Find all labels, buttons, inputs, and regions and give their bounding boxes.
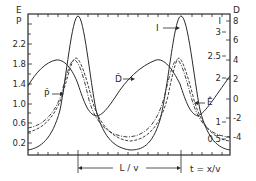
left-tick: 0.2 (12, 138, 26, 148)
curve-e (28, 60, 230, 137)
svg-text:P̂: P̂ (44, 88, 50, 99)
left-axis-label-p: P (16, 16, 22, 26)
curve-p (28, 58, 230, 141)
svg-text:Ê: Ê (207, 96, 213, 107)
arrow-icon (176, 26, 180, 30)
right-inner-tick: 2 (216, 73, 221, 83)
right-inner-tick: 1 (216, 117, 221, 127)
left-tick: 2.2 (12, 39, 26, 49)
right-outer-tick: 2 (233, 74, 238, 84)
svg-text:D̂: D̂ (115, 73, 122, 84)
right-outer-tick: 4 (233, 55, 238, 65)
period-marker: L / v (78, 155, 181, 173)
left-tick: 1.0 (12, 99, 26, 109)
right-outer-tick: 8 (233, 16, 238, 26)
bottom-axis-ticks (38, 150, 222, 155)
curve-label-p: P̂ (44, 88, 64, 99)
curve-i (28, 16, 230, 150)
right-axis-label-d: D (233, 5, 240, 15)
plot-frame (28, 14, 230, 155)
chart-figure: E P 2.2 1.8 1.4 1.0 0.6 0.2 I 3 2.5 2 1 … (0, 0, 256, 181)
right-inner-label-i: I (218, 16, 221, 26)
curve-label-d: D̂ (115, 73, 135, 84)
right-axis-ticks (222, 21, 230, 139)
svg-text:I: I (156, 23, 159, 33)
arrow-left-icon (78, 166, 82, 170)
right-outer-tick: 0 (233, 94, 238, 104)
arrow-icon (131, 77, 135, 81)
left-tick: 1.4 (12, 79, 26, 89)
left-tick: 1.8 (12, 59, 26, 69)
right-inner-tick: 2.5 (207, 51, 221, 61)
right-inner-tick: 3 (216, 27, 221, 37)
curves (28, 16, 230, 150)
x-axis-label: t = x/v (190, 164, 221, 174)
arrow-right-icon (177, 166, 181, 170)
left-tick: 0.6 (12, 118, 26, 128)
right-outer-tick: -4 (233, 132, 241, 142)
curve-label-e: Ê (194, 96, 213, 107)
right-outer-tick: -2 (233, 113, 241, 123)
period-label: L / v (119, 163, 139, 173)
right-outer-tick: 6 (233, 35, 238, 45)
left-axis-label-e: E (16, 5, 22, 15)
